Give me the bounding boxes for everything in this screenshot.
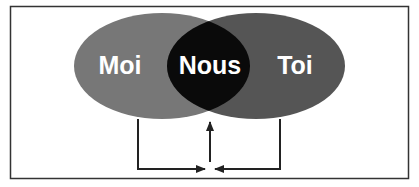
label-moi: Moi (98, 51, 141, 79)
venn-diagram: Moi Nous Toi (0, 0, 419, 187)
label-nous: Nous (179, 51, 242, 79)
label-toi: Toi (277, 51, 313, 79)
